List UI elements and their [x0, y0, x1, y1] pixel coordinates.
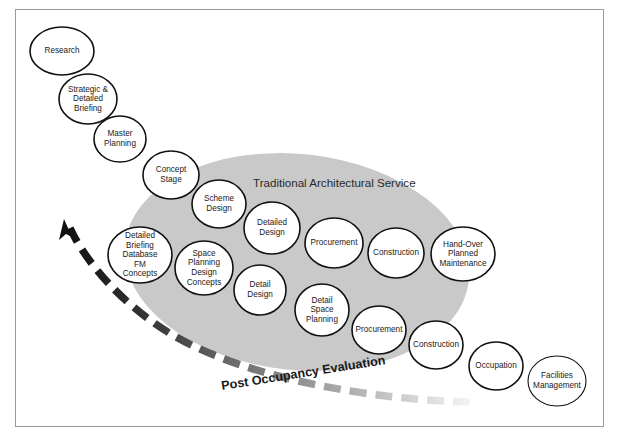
process-node-label: Design — [247, 290, 273, 299]
process-node[interactable]: Hand-OverPlannedMaintenance — [431, 227, 495, 281]
process-node-label: Design — [206, 204, 232, 213]
process-node[interactable]: SchemeDesign — [192, 180, 246, 228]
process-node[interactable]: DetailDesign — [234, 265, 286, 315]
process-node[interactable]: MasterPlanning — [94, 116, 146, 162]
process-node-label: Management — [533, 381, 582, 390]
process-node-label: Construction — [413, 340, 459, 349]
process-node-label: Procurement — [311, 238, 359, 247]
process-node-label: FM — [134, 260, 146, 269]
process-node-label: Briefing — [74, 104, 102, 113]
process-node[interactable]: Occupation — [469, 342, 523, 390]
process-node-label: Detailed — [125, 231, 155, 240]
process-node[interactable]: FacilitiesManagement — [528, 356, 586, 406]
process-node-label: Planned — [448, 249, 478, 258]
process-node-label: Stage — [160, 175, 182, 184]
process-node-label: Scheme — [204, 194, 234, 203]
process-node-label: Concepts — [123, 269, 158, 278]
process-node[interactable]: Procurement — [305, 218, 363, 268]
process-node-label: Detailed — [73, 94, 103, 103]
process-node[interactable]: Procurement — [352, 306, 406, 354]
process-node[interactable]: ConceptStage — [143, 151, 199, 199]
process-node-label: Detail — [312, 296, 333, 305]
process-node-label: Concepts — [187, 278, 222, 287]
process-node-label: Detail — [250, 280, 271, 289]
process-node[interactable]: DetailSpacePlanning — [295, 284, 349, 336]
process-node-label: Database — [122, 250, 157, 259]
process-node-label: Hand-Over — [443, 240, 483, 249]
process-node-label: Occupation — [475, 361, 517, 370]
process-map-diagram: Post Occupancy Evaluation Traditional Ar… — [0, 0, 620, 441]
process-node-label: Master — [107, 129, 132, 138]
process-node-label: Strategic & — [68, 85, 109, 94]
process-node-label: Maintenance — [440, 259, 487, 268]
process-node-label: Planning — [306, 315, 338, 324]
process-node-label: Detailed — [257, 218, 287, 227]
process-node-label: Research — [44, 46, 79, 55]
process-node-label: Briefing — [126, 241, 154, 250]
process-node-label: Space — [310, 305, 334, 314]
process-node-label: Facilities — [541, 371, 573, 380]
process-node-label: Concept — [156, 165, 187, 174]
region-label-text: Traditional Architectural Service — [253, 176, 416, 189]
process-node[interactable]: DetailedDesign — [244, 202, 300, 254]
process-node[interactable]: Strategic &DetailedBriefing — [59, 74, 117, 124]
process-node-label: Planning — [104, 139, 136, 148]
process-node[interactable]: Construction — [409, 321, 463, 369]
process-node-label: Planning — [188, 258, 220, 267]
process-node[interactable]: SpacePlanningDesignConcepts — [175, 241, 233, 295]
process-node-label: Space — [192, 249, 216, 258]
process-node-label: Design — [259, 228, 285, 237]
diagram-canvas: Post Occupancy Evaluation Traditional Ar… — [0, 0, 620, 441]
process-node-label: Design — [191, 268, 217, 277]
process-node[interactable]: Construction — [368, 228, 424, 278]
process-node[interactable]: Research — [30, 27, 94, 75]
process-node-label: Construction — [373, 248, 419, 257]
process-node[interactable]: DetailedBriefingDatabaseFMConcepts — [108, 227, 172, 283]
process-node-label: Procurement — [356, 325, 404, 334]
